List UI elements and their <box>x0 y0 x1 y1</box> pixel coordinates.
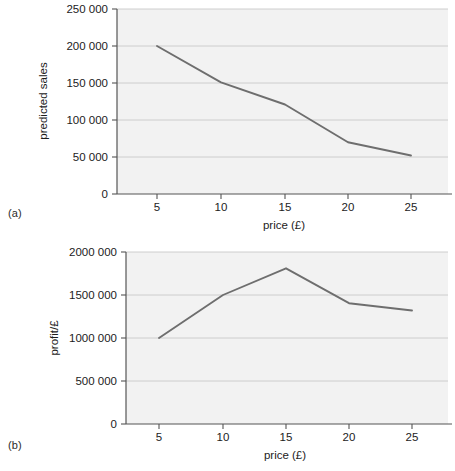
x-tick-label-b-15: 15 <box>280 431 293 443</box>
x-axis-title-a: price (£) <box>263 219 305 231</box>
x-tick-marks-b <box>159 424 412 429</box>
y-tick-marks-b <box>121 252 126 424</box>
x-tick-marks-a <box>157 194 411 199</box>
plot-area-background-a <box>117 9 448 194</box>
y-tick-label-a-200000: 200 000 <box>66 40 108 52</box>
x-tick-label-a-25: 25 <box>405 201 418 213</box>
predicted-sales-line-chart: 250 000 200 000 150 000 100 000 50 000 0… <box>0 0 455 235</box>
x-tick-label-a-20: 20 <box>342 201 355 213</box>
y-axis-title-b: profit/£ <box>48 320 60 356</box>
y-axis-title-a: predicted sales <box>37 62 49 140</box>
y-tick-label-a-100000: 100 000 <box>66 114 108 126</box>
y-tick-label-b-0: 0 <box>111 418 117 430</box>
panel-label-a: (a) <box>8 207 22 219</box>
x-tick-label-a-5: 5 <box>154 201 160 213</box>
y-tick-marks-a <box>112 9 117 194</box>
y-tick-label-a-250000: 250 000 <box>66 3 108 15</box>
panel-label-b: (b) <box>8 439 22 451</box>
chart-panel-b: 2000 000 1500 000 1000 000 500 000 0 5 1… <box>0 235 455 471</box>
y-tick-label-a-50000: 50 000 <box>73 151 108 163</box>
x-tick-label-a-15: 15 <box>279 201 292 213</box>
y-tick-label-b-500000: 500 000 <box>75 375 117 387</box>
x-tick-label-b-20: 20 <box>343 431 356 443</box>
x-tick-label-b-25: 25 <box>406 431 419 443</box>
chart-panel-a: 250 000 200 000 150 000 100 000 50 000 0… <box>0 0 455 235</box>
y-tick-label-b-1500000: 1500 000 <box>69 289 117 301</box>
x-axis-title-b: price (£) <box>264 449 306 461</box>
y-tick-label-b-1000000: 1000 000 <box>69 332 117 344</box>
profit-line-chart: 2000 000 1500 000 1000 000 500 000 0 5 1… <box>0 235 455 471</box>
x-tick-label-b-10: 10 <box>217 431 230 443</box>
y-tick-label-a-150000: 150 000 <box>66 77 108 89</box>
x-tick-label-b-5: 5 <box>156 431 162 443</box>
x-tick-label-a-10: 10 <box>215 201 228 213</box>
y-tick-label-b-2000000: 2000 000 <box>69 246 117 258</box>
y-tick-label-a-0: 0 <box>102 188 108 200</box>
